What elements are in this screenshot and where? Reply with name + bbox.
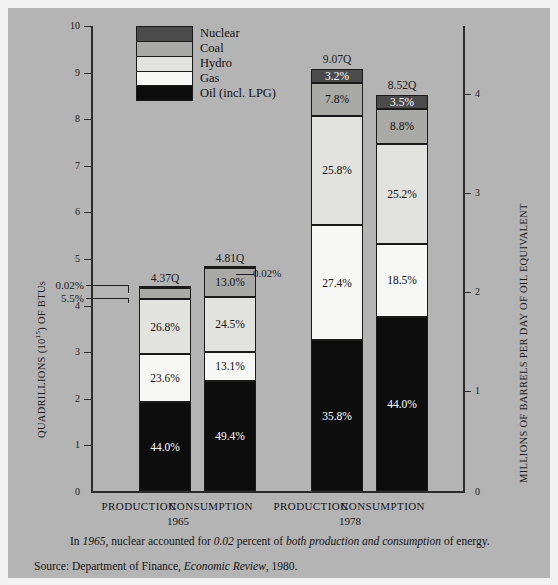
bar-segment-nuclear: 3.2%: [311, 69, 363, 83]
footnote-post: of energy.: [441, 535, 490, 547]
footnote: In 1965, nuclear accounted for 0.02 perc…: [70, 535, 490, 547]
legend-label-coal: Coal: [200, 41, 224, 56]
bar-segment-oil-incl-lpg: 35.8%: [311, 340, 363, 491]
category-label-1965-consumption: CONSUMPTION: [156, 500, 266, 512]
bar-segment-nuclear: [204, 266, 256, 268]
legend-label-hydro: Hydro: [200, 56, 232, 71]
bar-segment-hydro: 24.5%: [204, 297, 256, 352]
bar-segment-label: 13.1%: [215, 360, 245, 372]
y-tick-1: [84, 445, 92, 446]
bar-segment-label: 3.5%: [390, 96, 414, 108]
y-tick-2: [84, 399, 92, 400]
bar-1965-production-total-label: 4.37Q: [125, 272, 205, 284]
y-tick-9: [84, 73, 92, 74]
legend-label-gas: Gas: [200, 71, 219, 86]
y2-tick-2: [463, 292, 471, 293]
bar-segment-hydro: 26.8%: [139, 299, 191, 354]
y-tick-label-7: 7: [58, 161, 80, 171]
footnote-emphasis: both production and consumption: [286, 535, 441, 547]
callout-nuclear-1965-production: 0.02%: [36, 279, 84, 291]
y-tick-label-9: 9: [58, 68, 80, 78]
y-tick-6: [84, 212, 92, 213]
y-tick-label-10: 10: [58, 21, 80, 31]
bar-segment-label: 49.4%: [215, 430, 245, 442]
legend-label-nuclear: Nuclear: [200, 26, 240, 41]
y-tick-5: [84, 259, 92, 260]
y-tick-label-2: 2: [58, 394, 80, 404]
bar-1978-production: 35.8%27.4%25.8%7.8%3.2%: [311, 69, 363, 491]
bar-segment-nuclear: 3.5%: [376, 95, 428, 109]
legend: [136, 26, 193, 101]
y2-tick-label-1: 1: [475, 386, 495, 396]
bar-segment-label: 7.8%: [325, 93, 349, 105]
bar-segment-label: 3.2%: [325, 70, 349, 82]
bar-1965-consumption: 49.4%13.1%24.5%13.0%: [204, 268, 256, 492]
source-line: Source: Department of Finance, Economic …: [34, 560, 297, 572]
footnote-mid2: percent of: [234, 535, 286, 547]
bar-segment-label: 26.8%: [150, 321, 180, 333]
y-tick-label-6: 6: [58, 207, 80, 217]
y2-tick-4: [463, 94, 471, 95]
bar-segment-label: 8.8%: [390, 120, 414, 132]
y-tick-10: [84, 26, 92, 27]
bar-segment-oil-incl-lpg: 49.4%: [204, 381, 256, 492]
legend-swatch-gas: [137, 72, 192, 86]
callout-coal-1965-production: 5.5%: [36, 292, 84, 304]
footnote-year: 1965: [82, 535, 105, 547]
bar-segment-gas: 13.1%: [204, 352, 256, 381]
bar-segment-label: 44.0%: [387, 398, 417, 410]
bar-segment-label: 24.5%: [215, 318, 245, 330]
legend-swatch-hydro: [137, 57, 192, 72]
source-suffix: , 1980.: [266, 560, 298, 572]
bar-segment-gas: 18.5%: [376, 244, 428, 317]
y-axis-right: [463, 26, 465, 492]
y-tick-label-3: 3: [58, 347, 80, 357]
y-tick-3: [84, 352, 92, 353]
bar-1978-production-total-label: 9.07Q: [297, 53, 377, 65]
y-tick-label-8: 8: [58, 114, 80, 124]
bar-segment-oil-incl-lpg: 44.0%: [139, 402, 191, 492]
bar-segment-label: 25.8%: [322, 164, 352, 176]
callout-line-nuclear-1965-production-v: [128, 285, 129, 293]
bar-segment-label: 25.2%: [387, 188, 417, 200]
bar-segment-gas: 27.4%: [311, 225, 363, 341]
y-tick-8: [84, 119, 92, 120]
footnote-mid: , nuclear accounted for: [105, 535, 213, 547]
bar-segment-label: 18.5%: [387, 274, 417, 286]
y2-tick-1: [463, 391, 471, 392]
bar-segment-label: 23.6%: [150, 372, 180, 384]
callout-line-coal-1965-production: [86, 298, 129, 299]
y2-tick-3: [463, 193, 471, 194]
chart-panel: 10 9 8 7 6 5 4 3 2 1 0 4 3 2: [8, 8, 550, 578]
legend-swatch-coal: [137, 42, 192, 57]
bar-segment-label: 13.0%: [215, 276, 245, 288]
source-prefix: Source: Department of Finance,: [34, 560, 184, 572]
source-publication: Economic Review: [184, 560, 266, 572]
category-label-1978-consumption: CONSUMPTION: [328, 500, 438, 512]
bar-segment-nuclear: [139, 286, 191, 288]
chart-page: 10 9 8 7 6 5 4 3 2 1 0 4 3 2: [0, 0, 558, 585]
y-tick-label-0: 0: [58, 487, 80, 497]
y-tick-label-1: 1: [58, 440, 80, 450]
bar-segment-coal: [139, 288, 191, 299]
footnote-value: 0.02: [214, 535, 234, 547]
legend-swatch-oil: [137, 86, 192, 100]
bar-segment-oil-incl-lpg: 44.0%: [376, 317, 428, 492]
bar-segment-gas: 23.6%: [139, 354, 191, 402]
legend-label-oil: Oil (incl. LPG): [200, 86, 276, 101]
legend-swatch-nuclear: [137, 27, 192, 42]
bar-1978-consumption: 44.0%18.5%25.2%8.8%3.5%: [376, 95, 428, 492]
callout-line-coal-1965-production-v: [128, 298, 129, 303]
bar-segment-label: 27.4%: [322, 277, 352, 289]
plot-area: 10 9 8 7 6 5 4 3 2 1 0 4 3 2: [8, 8, 550, 578]
bar-1978-consumption-total-label: 8.52Q: [362, 79, 442, 91]
y2-tick-label-0: 0: [475, 487, 495, 497]
bar-1965-production: 44.0%23.6%26.8%: [139, 288, 191, 491]
y2-tick-label-2: 2: [475, 287, 495, 297]
callout-line-nuclear-1965-production: [86, 285, 129, 286]
y-tick-7: [84, 166, 92, 167]
bar-segment-coal: 7.8%: [311, 83, 363, 116]
bar-segment-label: 35.8%: [322, 410, 352, 422]
bar-segment-hydro: 25.8%: [311, 116, 363, 225]
callout-nuclear-1965-consumption: 0.02%: [253, 267, 301, 279]
